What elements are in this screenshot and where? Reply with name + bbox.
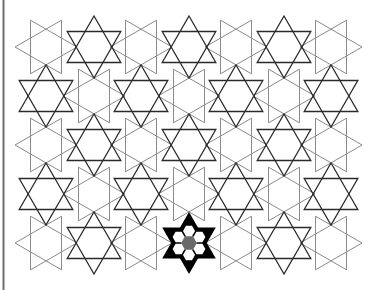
dark-star-icon — [67, 114, 121, 176]
dark-star-icon — [304, 65, 358, 127]
dark-star-icon — [67, 16, 121, 78]
dark-star-icon — [209, 65, 263, 127]
dark-star-icon — [209, 163, 263, 225]
dark-star-icon — [114, 163, 168, 225]
star-tessellation-figure — [0, 0, 379, 290]
dark-star-icon — [304, 163, 358, 225]
dark-star-icon — [162, 114, 216, 176]
dark-star-icon — [257, 212, 311, 274]
highlighted-star — [162, 212, 216, 274]
dark-star-icon — [19, 65, 73, 127]
star-pattern-canvas — [0, 0, 379, 290]
dark-star-icon — [162, 16, 216, 78]
dark-star-icon — [19, 163, 73, 225]
dark-star-icon — [114, 65, 168, 127]
dark-star-icon — [257, 114, 311, 176]
dark-star-icon — [67, 212, 121, 274]
dark-star-icon — [257, 16, 311, 78]
